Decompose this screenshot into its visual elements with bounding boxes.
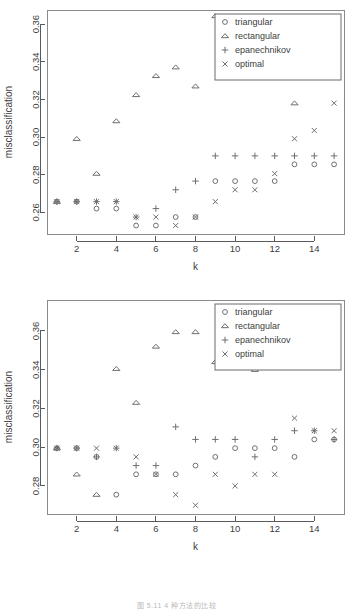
- data-point-plus: [93, 454, 99, 460]
- legend-label-triangle: rectangular: [235, 31, 280, 41]
- data-point-cross: [292, 416, 297, 421]
- circle-marker: [193, 463, 198, 468]
- data-point-cross: [332, 428, 337, 433]
- data-point-circle: [312, 437, 317, 442]
- data-point-plus: [212, 153, 218, 159]
- data-point-circle: [134, 472, 139, 477]
- data-point-cross: [153, 472, 158, 477]
- data-point-circle: [233, 446, 238, 451]
- circle-marker: [213, 454, 218, 459]
- chart-panel-bottom: 0.280.300.320.340.362468101214kmisclassi…: [0, 290, 353, 590]
- circle-marker: [134, 472, 139, 477]
- x-axis-tick-label: 2: [74, 523, 79, 534]
- figure-caption: 图 5.11 4 种方法的比较: [0, 600, 353, 610]
- x-axis-tick-label: 8: [193, 523, 198, 534]
- series-triangular: [55, 437, 337, 497]
- data-point-cross: [252, 472, 257, 477]
- triangle-marker: [93, 171, 100, 175]
- chart-legend: triangularrectangularepanechnikovoptimal: [215, 14, 341, 80]
- data-point-cross: [153, 215, 158, 220]
- data-point-cross: [332, 101, 337, 106]
- y-axis-tick-label: 0.34: [31, 53, 42, 72]
- data-point-cross: [233, 483, 238, 488]
- data-point-cross: [272, 472, 277, 477]
- triangle-marker: [93, 492, 100, 496]
- data-point-plus: [252, 153, 258, 159]
- legend-label-circle: triangular: [235, 17, 273, 27]
- y-axis-tick-label: 0.26: [31, 203, 42, 222]
- data-point-circle: [312, 162, 317, 167]
- data-point-circle: [154, 223, 159, 228]
- data-point-triangle: [152, 74, 159, 78]
- x-axis-tick-label: 10: [230, 523, 241, 534]
- data-point-plus: [212, 436, 218, 442]
- data-point-plus: [331, 436, 337, 442]
- data-point-circle: [253, 179, 258, 184]
- data-point-triangle: [172, 65, 179, 69]
- data-point-cross: [312, 128, 317, 133]
- data-point-circle: [272, 446, 277, 451]
- data-point-circle: [173, 472, 178, 477]
- data-point-triangle: [152, 344, 159, 348]
- data-point-cross: [134, 454, 139, 459]
- data-point-plus: [271, 436, 277, 442]
- y-axis-tick-label: 0.30: [31, 438, 42, 457]
- circle-marker: [94, 206, 99, 211]
- y-axis-tick-label: 0.30: [31, 128, 42, 147]
- circle-marker: [253, 446, 258, 451]
- data-point-cross: [233, 187, 238, 192]
- scatter-plot-top: 0.260.280.300.320.340.362468101214kmiscl…: [0, 0, 353, 290]
- y-axis-tick-label: 0.28: [31, 477, 42, 496]
- data-point-plus: [192, 178, 198, 184]
- data-point-plus: [192, 436, 198, 442]
- triangle-marker: [172, 330, 179, 334]
- data-point-circle: [213, 179, 218, 184]
- data-point-plus: [271, 153, 277, 159]
- data-point-circle: [114, 492, 119, 497]
- x-axis-tick-label: 12: [269, 243, 280, 254]
- data-point-cross: [94, 446, 99, 451]
- circle-marker: [272, 179, 277, 184]
- triangle-marker: [133, 400, 140, 404]
- y-axis-title: misclassification: [3, 86, 14, 158]
- y-axis-tick-label: 0.36: [30, 322, 41, 341]
- triangle-marker: [113, 119, 120, 123]
- data-point-triangle: [113, 119, 120, 123]
- x-axis-title: k: [193, 541, 199, 552]
- x-axis-tick-label: 12: [269, 523, 280, 534]
- x-axis-tick-label: 6: [153, 523, 158, 534]
- data-point-triangle: [73, 472, 80, 476]
- data-point-circle: [233, 179, 238, 184]
- data-point-circle: [332, 162, 337, 167]
- data-point-plus: [232, 153, 238, 159]
- data-point-plus: [232, 436, 238, 442]
- data-point-cross: [173, 223, 178, 228]
- data-point-plus: [252, 454, 258, 460]
- y-axis-tick-label: 0.34: [31, 360, 42, 379]
- legend-label-circle: triangular: [235, 307, 273, 317]
- data-point-plus: [172, 424, 178, 430]
- circle-marker: [312, 162, 317, 167]
- x-axis-tick-label: 2: [74, 243, 79, 254]
- data-point-plus: [311, 153, 317, 159]
- scatter-plot-bottom: 0.280.300.320.340.362468101214kmisclassi…: [0, 290, 353, 590]
- triangle-marker: [73, 136, 80, 140]
- circle-marker: [114, 492, 119, 497]
- data-point-triangle: [172, 330, 179, 334]
- data-point-cross: [193, 215, 198, 220]
- circle-marker: [114, 206, 119, 211]
- data-point-cross: [213, 472, 218, 477]
- data-point-cross: [213, 199, 218, 204]
- triangle-marker: [133, 93, 140, 97]
- triangle-marker: [73, 472, 80, 476]
- legend-label-cross: optimal: [235, 59, 264, 69]
- triangle-marker: [172, 65, 179, 69]
- data-point-plus: [331, 153, 337, 159]
- triangle-marker: [113, 366, 120, 370]
- y-axis-title: misclassification: [3, 371, 14, 443]
- circle-marker: [272, 446, 277, 451]
- chart-panel-top: 0.260.280.300.320.340.362468101214kmiscl…: [0, 0, 353, 290]
- circle-marker: [292, 162, 297, 167]
- data-point-cross: [252, 187, 257, 192]
- circle-marker: [332, 162, 337, 167]
